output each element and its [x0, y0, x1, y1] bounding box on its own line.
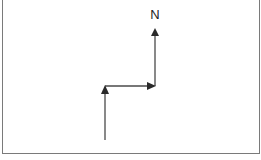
path-diagram: N: [0, 0, 261, 160]
north-label: N: [150, 7, 159, 22]
arrow-up-icon: [151, 28, 159, 36]
arrowheads: [101, 28, 159, 94]
